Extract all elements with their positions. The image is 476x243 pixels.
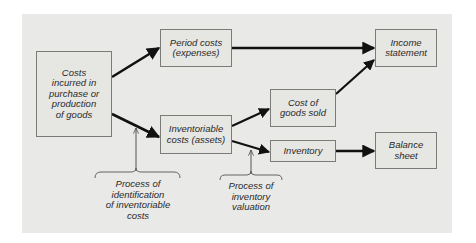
node-balance-sheet-label: Balance sheet [389, 140, 423, 161]
node-cost-of-goods-sold: Cost of goods sold [270, 89, 336, 127]
arrow-costs-to-period [112, 48, 159, 77]
node-inventoriable-costs: Inventoriable costs (assets) [160, 115, 232, 154]
arrow-inventoriable-to-cogs [232, 109, 269, 126]
node-costs-incurred-label: Costs incurred in purchase or production… [49, 68, 99, 121]
node-costs-incurred: Costs incurred in purchase or production… [36, 51, 112, 137]
node-period-costs-label: Period costs (expenses) [170, 38, 222, 59]
brace-identification [95, 168, 180, 178]
arrow-inventoriable-to-inventory [232, 141, 269, 152]
node-income-statement: Income statement [375, 29, 437, 67]
annotation-identification: Process of identification of inventoriab… [92, 179, 184, 221]
arrow-costs-to-inventoriable [112, 114, 159, 137]
brace-valuation [220, 171, 282, 180]
node-balance-sheet: Balance sheet [375, 132, 437, 169]
node-period-costs: Period costs (expenses) [160, 29, 232, 67]
node-inventory: Inventory [270, 140, 336, 162]
node-income-statement-label: Income statement [385, 38, 427, 59]
node-inventoriable-costs-label: Inventoriable costs (assets) [167, 124, 226, 145]
arrow-cogs-to-income [336, 60, 374, 94]
node-cost-of-goods-sold-label: Cost of goods sold [280, 98, 326, 119]
annotation-valuation: Process of inventory valuation [214, 181, 288, 213]
node-inventory-label: Inventory [283, 146, 322, 157]
